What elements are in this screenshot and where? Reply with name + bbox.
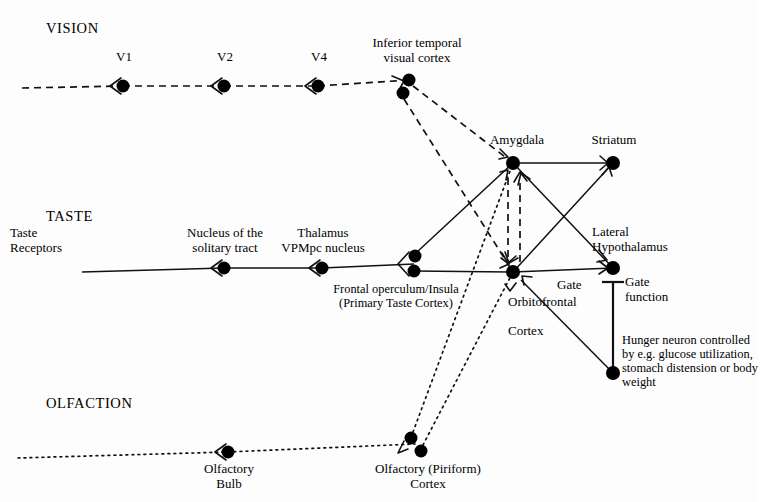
edge-v4-it — [318, 80, 409, 86]
node-striatum[interactable] — [606, 156, 620, 170]
node-operculum-upper[interactable] — [409, 250, 422, 263]
label-v1: V1 — [110, 50, 138, 65]
label-inferior-temporal-visual-cortex: Inferior temporal visual cortex — [358, 36, 476, 65]
node-orbitofrontal[interactable] — [506, 265, 520, 279]
node-v2[interactable] — [218, 80, 231, 93]
node-v4[interactable] — [312, 80, 325, 93]
edge-operculum-amygdala — [417, 163, 513, 252]
modality-label-taste: TASTE — [46, 208, 93, 224]
label-taste-receptors: Taste Receptors — [10, 226, 102, 255]
edge-taste-in-nucleus — [82, 268, 224, 272]
label-v4: V4 — [305, 50, 333, 65]
node-olfactory-bulb[interactable] — [222, 446, 235, 459]
node-piriform-upper[interactable] — [405, 432, 418, 445]
arrowhead-into-orbitofrontal-gate — [522, 276, 532, 285]
node-hunger-neuron[interactable] — [606, 366, 620, 380]
label-olfactory-bulb: Olfactory Bulb — [196, 462, 262, 491]
label-orbitofrontal-cortex: Orbitofrontal Cortex — [508, 295, 604, 339]
label-thalamus-vpmpc: Thalamus VPMpc nucleus — [264, 226, 382, 255]
node-nucleus-solitary[interactable] — [218, 262, 231, 275]
edge-it-amygdala — [413, 86, 513, 163]
edge-olfaction-in-bulb — [18, 452, 228, 458]
node-piriform-lower[interactable] — [415, 445, 428, 458]
node-lateral-hypothalamus[interactable] — [606, 261, 620, 275]
label-striatum: Striatum — [578, 133, 650, 148]
label-frontal-operculum-insula: Frontal operculum/Insula (Primary Taste … — [305, 283, 487, 311]
edge-operculum-orbitofrontal — [414, 271, 513, 272]
node-amygdala[interactable] — [506, 156, 520, 170]
label-gate-function: Gate function — [625, 275, 695, 304]
label-gate: Gate — [557, 278, 601, 293]
label-hunger-neuron: Hunger neuron controlled by e.g. glucose… — [622, 334, 760, 390]
node-it-upper[interactable] — [403, 74, 416, 87]
node-v1[interactable] — [117, 80, 130, 93]
edge-vision-in-v1 — [22, 86, 123, 88]
edge-bulb-piriform — [228, 444, 415, 452]
label-amygdala: Amygdala — [478, 133, 556, 148]
node-operculum-lower[interactable] — [408, 265, 421, 278]
node-it-lower[interactable] — [397, 87, 410, 100]
label-v2: V2 — [211, 50, 239, 65]
modality-label-olfaction: OLFACTION — [46, 395, 133, 411]
label-lateral-hypothalamus: Lateral Hypothalamus — [592, 225, 708, 254]
modality-label-vision: VISION — [46, 20, 99, 36]
arrowhead-into-amygdala-from-operculum — [500, 170, 508, 180]
node-thalamus-vpmpc[interactable] — [316, 262, 329, 275]
edge-orbitofrontal-lateral-hypothalamus — [513, 268, 613, 272]
arrowhead-into-piriform — [398, 441, 408, 453]
edge-it-orbitofrontal — [404, 99, 513, 272]
label-olfactory-piriform-cortex: Olfactory (Piriform) Cortex — [358, 462, 498, 491]
